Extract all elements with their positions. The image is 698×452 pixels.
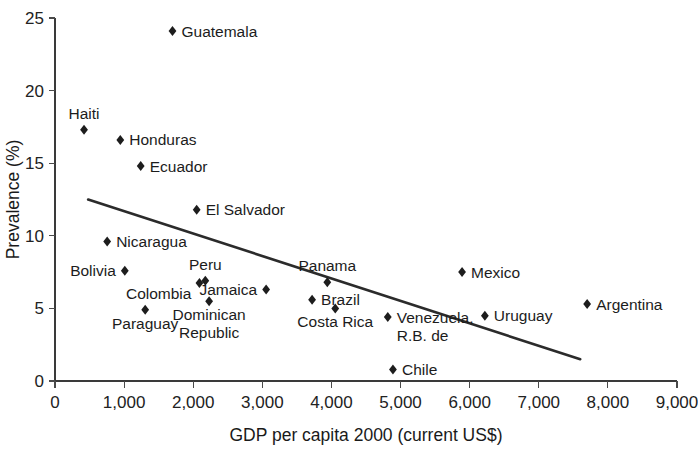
- y-tick-label: 15: [25, 154, 44, 173]
- x-tick-label: 0: [50, 393, 59, 412]
- y-tick-label: 20: [25, 82, 44, 101]
- data-point-label: Panama: [298, 257, 356, 274]
- y-axis-title: Prevalence (%): [3, 140, 23, 260]
- x-tick-label: 5,000: [379, 393, 422, 412]
- x-tick-label: 8,000: [587, 393, 630, 412]
- data-point-marker: [121, 266, 129, 276]
- data-point-label: Argentina: [596, 296, 663, 313]
- data-point-label: Guatemala: [181, 23, 257, 40]
- data-point-marker: [481, 311, 489, 321]
- data-point-marker: [80, 125, 88, 135]
- data-point-marker: [308, 295, 316, 305]
- data-point-label: Bolivia: [70, 262, 116, 279]
- data-point-marker: [103, 237, 111, 247]
- data-point-marker: [193, 205, 201, 215]
- x-tick-label: 1,000: [103, 393, 146, 412]
- x-tick-label: 2,000: [172, 393, 215, 412]
- data-point-label: Brazil: [321, 291, 360, 308]
- data-points: GuatemalaHaitiHondurasEcuadorEl Salvador…: [69, 23, 663, 378]
- data-point-marker: [169, 26, 177, 36]
- y-tick-label: 25: [25, 9, 44, 28]
- y-tick-label: 5: [35, 299, 44, 318]
- data-point-marker: [389, 364, 397, 374]
- x-tick-label: 3,000: [241, 393, 284, 412]
- data-point-label: DominicanRepublic: [173, 306, 246, 341]
- data-point-label: Haiti: [69, 105, 100, 122]
- scatter-plot: 0510152025 01,0002,0003,0004,0005,0006,0…: [0, 0, 698, 452]
- data-point-label: Ecuador: [150, 158, 208, 175]
- x-axis: 01,0002,0003,0004,0005,0006,0007,0008,00…: [50, 381, 698, 412]
- data-point-marker: [583, 299, 591, 309]
- data-point-label: Chile: [402, 361, 437, 378]
- y-axis: 0510152025: [25, 9, 55, 391]
- data-point-label: Uruguay: [494, 307, 553, 324]
- data-point-label: Costa Rica: [297, 313, 373, 330]
- data-point-marker: [262, 285, 270, 295]
- chart-page: 0510152025 01,0002,0003,0004,0005,0006,0…: [0, 0, 698, 452]
- data-point-label: Venezuela,R.B. de: [397, 309, 474, 344]
- data-point-label: El Salvador: [206, 201, 285, 218]
- x-tick-label: 6,000: [448, 393, 491, 412]
- data-point-label: Jamaica: [199, 281, 257, 298]
- data-point-marker: [116, 135, 124, 145]
- data-point-label: Colombia: [126, 285, 192, 302]
- x-tick-label: 9,000: [656, 393, 698, 412]
- y-tick-label: 0: [35, 372, 44, 391]
- y-tick-label: 10: [25, 227, 44, 246]
- data-point-marker: [458, 267, 466, 277]
- data-point-marker: [141, 305, 149, 315]
- data-point-label: Peru: [189, 256, 222, 273]
- data-point-label: Honduras: [129, 131, 196, 148]
- data-point-marker: [384, 312, 392, 322]
- data-point-label: Paraguay: [112, 315, 179, 332]
- x-tick-label: 7,000: [518, 393, 561, 412]
- x-tick-label: 4,000: [310, 393, 353, 412]
- data-point-label: Nicaragua: [116, 233, 187, 250]
- data-point-marker: [137, 161, 145, 171]
- data-point-label: Mexico: [471, 264, 520, 281]
- x-axis-title: GDP per capita 2000 (current US$): [229, 425, 502, 445]
